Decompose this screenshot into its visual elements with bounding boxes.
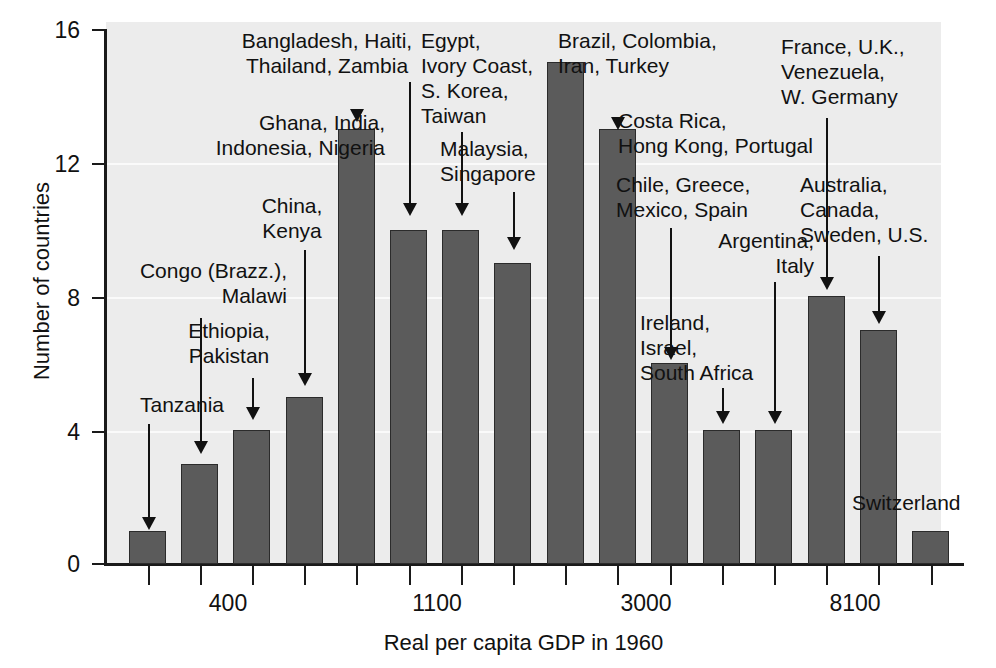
x-tick-15 <box>878 566 880 585</box>
x-tick-label-1100: 1100 <box>392 590 482 617</box>
y-tick-0 <box>92 563 105 565</box>
x-tick-8 <box>513 566 515 585</box>
annotation-congo-malawi: Congo (Brazz.), Malawi <box>112 258 287 308</box>
x-tick-label-8100: 8100 <box>810 590 900 617</box>
y-tick-label-16: 16 <box>40 17 80 44</box>
y-tick-4 <box>92 431 105 433</box>
arrowhead-france-uk <box>820 277 834 290</box>
x-tick-16 <box>931 566 933 585</box>
y-axis-title: Number of countries <box>29 131 55 431</box>
histogram-figure: 16 12 8 4 0 Number of countries Real per… <box>0 0 996 668</box>
bar-6 <box>390 230 427 565</box>
annotation-malaysia: Malaysia, Singapore <box>440 136 572 186</box>
bar-3 <box>233 430 270 564</box>
arrowhead-china-kenya <box>298 373 312 386</box>
leader-line-malaysia <box>513 192 515 238</box>
arrowhead-egypt <box>455 203 469 216</box>
annotation-ethiopia-pak: Ethiopia, Pakistan <box>168 318 290 368</box>
leader-line-china-kenya <box>304 250 306 374</box>
y-tick-12 <box>92 163 105 165</box>
bar-8 <box>494 263 531 564</box>
x-tick-label-400: 400 <box>183 590 273 617</box>
annotation-costa-rica: Costa Rica, Hong Kong, Portugal <box>618 108 840 158</box>
bar-16 <box>912 531 949 564</box>
arrowhead-congo-malawi <box>194 441 208 454</box>
bar-1 <box>129 531 166 564</box>
annotation-switzerland: Switzerland <box>852 490 992 515</box>
leader-line-ethiopia-pak <box>252 378 254 408</box>
x-tick-12 <box>722 566 724 585</box>
x-tick-9 <box>565 566 567 585</box>
x-tick-2 <box>200 566 202 585</box>
bar-12 <box>703 430 740 564</box>
y-tick-label-0: 0 <box>40 551 80 578</box>
bar-11 <box>651 363 688 564</box>
x-tick-3 <box>252 566 254 585</box>
leader-line-tanzania <box>148 424 150 518</box>
annotation-france-uk: France, U.K., Venezuela, W. Germany <box>781 34 933 109</box>
x-tick-11 <box>670 566 672 585</box>
leader-line-australia <box>878 256 880 312</box>
annotation-australia: Australia, Canada, Sweden, U.S. <box>800 172 952 247</box>
leader-line-bangladesh <box>409 82 411 204</box>
arrowhead-argentina <box>768 411 782 424</box>
x-tick-4 <box>304 566 306 585</box>
annotation-tanzania: Tanzania <box>112 392 252 417</box>
arrowhead-tanzania <box>142 517 156 530</box>
x-tick-13 <box>774 566 776 585</box>
arrowhead-bangladesh <box>403 203 417 216</box>
annotation-china-kenya: China, Kenya <box>238 193 346 243</box>
bar-7 <box>442 230 479 565</box>
x-tick-1 <box>148 566 150 585</box>
annotation-brazil: Brazil, Colombia, Iran, Turkey <box>558 28 738 78</box>
y-tick-16 <box>92 29 105 31</box>
annotation-argentina: Argentina, Italy <box>686 228 814 278</box>
arrowhead-australia <box>872 311 886 324</box>
arrowhead-ethiopia-pak <box>246 407 260 420</box>
x-tick-10 <box>617 566 619 585</box>
x-tick-7 <box>461 566 463 585</box>
bar-14 <box>808 296 845 564</box>
x-tick-6 <box>409 566 411 585</box>
bar-15 <box>860 330 897 564</box>
x-tick-14 <box>826 566 828 585</box>
bar-2 <box>181 464 218 564</box>
x-axis-title: Real per capita GDP in 1960 <box>106 630 941 656</box>
arrowhead-costa-rica <box>611 117 625 130</box>
annotation-chile-greece: Chile, Greece, Mexico, Spain <box>616 172 786 222</box>
x-tick-label-3000: 3000 <box>601 590 691 617</box>
leader-line-ireland <box>722 388 724 412</box>
arrowhead-ireland <box>716 411 730 424</box>
y-tick-8 <box>92 297 105 299</box>
annotation-egypt: Egypt, Ivory Coast, S. Korea, Taiwan <box>421 28 553 128</box>
leader-line-argentina <box>774 282 776 412</box>
bar-4 <box>286 397 323 564</box>
annotation-bangladesh: Bangladesh, Haiti, Thailand, Zambia <box>232 28 422 78</box>
x-tick-5 <box>356 566 358 585</box>
arrowhead-malaysia <box>507 237 521 250</box>
arrowhead-ghana-india <box>350 109 364 122</box>
bar-13 <box>755 430 792 564</box>
